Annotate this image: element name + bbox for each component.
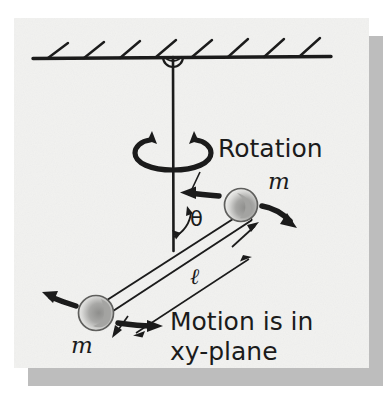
rotation-label: Rotation — [218, 134, 323, 163]
motion-caption-line-1: Motion is in — [170, 307, 313, 336]
motion-caption-line-2: xy-plane — [170, 337, 278, 366]
diagram-canvas: Rotation θ ℓ m — [0, 0, 387, 402]
physics-diagram-figure: Rotation θ ℓ m — [0, 0, 387, 402]
length-label: ℓ — [190, 264, 200, 289]
lower-mass-ball — [79, 296, 114, 331]
theta-label: θ — [190, 207, 203, 231]
vertical-rotation-axis-rod — [173, 57, 174, 251]
upper-mass-label: m — [268, 168, 290, 194]
upper-mass-ball — [225, 189, 258, 222]
lower-mass-label: m — [71, 332, 93, 358]
